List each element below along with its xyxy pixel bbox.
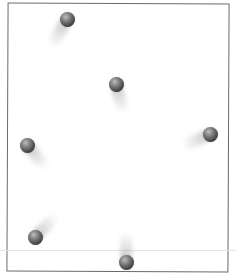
sphere-ball	[119, 255, 134, 270]
sphere-ball	[60, 12, 75, 27]
sphere-ball	[109, 77, 124, 92]
sphere-ball	[28, 230, 43, 245]
sphere-ball	[203, 127, 218, 142]
faint-horizontal-line	[0, 250, 236, 251]
sphere-ball	[20, 138, 35, 153]
